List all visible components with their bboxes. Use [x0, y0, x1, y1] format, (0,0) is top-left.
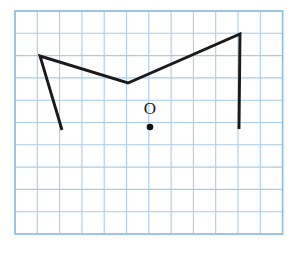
geometry-figure: O [0, 0, 301, 256]
point-label-o: O [144, 99, 156, 118]
figure-canvas: O [0, 0, 301, 256]
zigzag-polyline [40, 34, 240, 130]
grid-lines-group [15, 11, 283, 234]
point-dot-icon [147, 124, 154, 131]
